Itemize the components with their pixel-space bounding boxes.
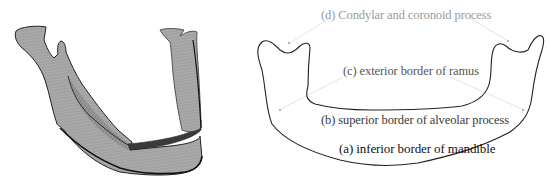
leader-c-left [281, 77, 343, 109]
marker-c-left [279, 109, 281, 111]
mandible-figure: (d) Condylar and coronoid process (c) ex… [0, 0, 549, 185]
label-superior-border-alveolar: (b) superior border of alveolar process [321, 113, 509, 127]
leader-c-right [450, 77, 522, 109]
label-exterior-border-ramus: (c) exterior border of ramus [343, 64, 479, 78]
marker-c-right [522, 109, 524, 111]
marker-d-right [507, 40, 509, 42]
marker-d-left [288, 42, 290, 44]
mandible-outline-diagram [0, 0, 549, 185]
label-condylar-coronoid: (d) Condylar and coronoid process [321, 8, 491, 22]
label-inferior-border-mandible: (a) inferior border of mandible [339, 142, 495, 156]
